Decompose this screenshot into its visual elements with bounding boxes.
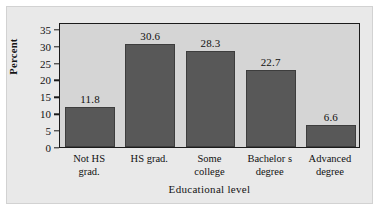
x-tick-label: Bachelor sdegree bbox=[236, 152, 304, 178]
x-axis-tick-labels: Not HSgrad.HS grad.SomecollegeBachelor s… bbox=[59, 152, 360, 186]
x-tick-label-line: Bachelor s bbox=[236, 152, 304, 165]
y-tick-label: 30 bbox=[27, 41, 51, 53]
y-axis: Percent 05101520253035 bbox=[7, 23, 59, 148]
x-tick-label-line: HS grad. bbox=[115, 152, 183, 165]
x-axis-title: Educational level bbox=[59, 183, 360, 195]
x-tick-label-line: grad. bbox=[55, 165, 123, 178]
x-tick-label: Somecollege bbox=[175, 152, 243, 178]
x-tick-label: HS grad. bbox=[115, 152, 183, 165]
bar-value-label: 30.6 bbox=[125, 30, 175, 42]
y-tick-label: 35 bbox=[27, 24, 51, 36]
bar-value-label: 11.8 bbox=[65, 93, 115, 105]
bar-value-label: 22.7 bbox=[246, 56, 296, 68]
bar bbox=[306, 125, 356, 147]
x-tick-label-line: Not HS bbox=[55, 152, 123, 165]
bar-value-label: 6.6 bbox=[306, 111, 356, 123]
x-tick-label-line: degree bbox=[296, 165, 364, 178]
y-tick-label: 25 bbox=[27, 58, 51, 70]
y-tick-label: 20 bbox=[27, 74, 51, 86]
bar-series: 11.830.628.322.76.6 bbox=[60, 24, 359, 147]
y-tick-label: 15 bbox=[27, 91, 51, 103]
x-tick-label-line: Advanced bbox=[296, 152, 364, 165]
y-tick-label: 10 bbox=[27, 108, 51, 120]
x-tick-label: Not HSgrad. bbox=[55, 152, 123, 178]
plot-area: 11.830.628.322.76.6 bbox=[59, 23, 360, 148]
x-tick-label-line: degree bbox=[236, 165, 304, 178]
chart-figure: Percent 05101520253035 11.830.628.322.76… bbox=[6, 6, 373, 204]
x-tick-label-line: college bbox=[175, 165, 243, 178]
y-axis-title: Percent bbox=[8, 22, 19, 92]
bar bbox=[65, 107, 115, 147]
bar bbox=[246, 70, 296, 147]
x-tick-label-line: Some bbox=[175, 152, 243, 165]
y-tick-label: 0 bbox=[27, 142, 51, 154]
bar-value-label: 28.3 bbox=[186, 37, 236, 49]
x-tick-label: Advanceddegree bbox=[296, 152, 364, 178]
bar bbox=[186, 51, 236, 147]
bar bbox=[125, 44, 175, 147]
y-tick-label: 5 bbox=[27, 125, 51, 137]
